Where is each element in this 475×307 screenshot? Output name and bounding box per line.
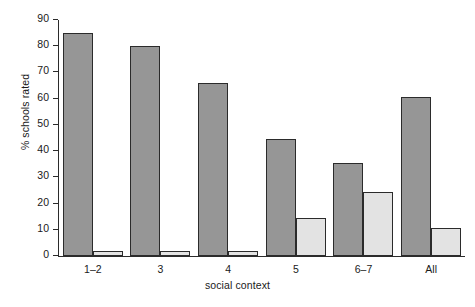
bar-light xyxy=(93,251,123,256)
y-axis-tick-label: 20 xyxy=(37,196,49,209)
x-axis-line xyxy=(58,256,465,257)
y-axis-tick-label: 50 xyxy=(37,117,49,130)
y-axis-tick: 70 xyxy=(53,71,58,72)
bar-groups: 1–23456–7All xyxy=(59,20,465,256)
x-axis-tick-label: All xyxy=(391,263,471,275)
y-axis-tick: 0 xyxy=(53,255,58,256)
y-axis-tick-label: 70 xyxy=(37,64,49,77)
bar-light xyxy=(160,251,190,256)
x-axis-title: social context xyxy=(0,279,475,291)
bar-group: 1–2 xyxy=(59,20,127,256)
y-axis-tick-label: 30 xyxy=(37,169,49,182)
bar-group: 6–7 xyxy=(330,20,398,256)
bar-chart-figure: % schools rated 0102030405060708090 1–23… xyxy=(0,0,475,307)
bar-group: 4 xyxy=(194,20,262,256)
y-axis-tick: 90 xyxy=(53,19,58,20)
y-axis-tick: 10 xyxy=(53,229,58,230)
y-axis-tick: 50 xyxy=(53,124,58,125)
plot-area: 0102030405060708090 1–23456–7All xyxy=(58,20,465,257)
y-axis-tick-label: 80 xyxy=(37,38,49,51)
y-axis-tick-label: 40 xyxy=(37,143,49,156)
bar-light xyxy=(296,218,326,256)
y-axis-tick-label: 60 xyxy=(37,91,49,104)
y-axis-tick: 60 xyxy=(53,98,58,99)
bar-light xyxy=(363,192,393,256)
bar-dark xyxy=(333,163,363,256)
y-axis-tick-label: 0 xyxy=(43,248,49,261)
bar-light xyxy=(228,251,258,256)
bar-light xyxy=(431,228,461,256)
bar-group: 5 xyxy=(262,20,330,256)
y-axis-tick-label: 90 xyxy=(37,12,49,25)
y-axis-tick: 40 xyxy=(53,150,58,151)
y-axis-tick: 20 xyxy=(53,203,58,204)
y-axis-tick-label: 10 xyxy=(37,222,49,235)
bar-dark xyxy=(63,33,93,256)
bar-group: 3 xyxy=(127,20,195,256)
y-axis-tick: 30 xyxy=(53,176,58,177)
y-axis-title: % schools rated xyxy=(19,42,31,182)
bar-dark xyxy=(198,83,228,256)
bar-dark xyxy=(401,97,431,256)
bar-dark xyxy=(130,46,160,256)
y-axis-tick: 80 xyxy=(53,45,58,46)
bar-dark xyxy=(266,139,296,256)
bar-group: All xyxy=(397,20,465,256)
